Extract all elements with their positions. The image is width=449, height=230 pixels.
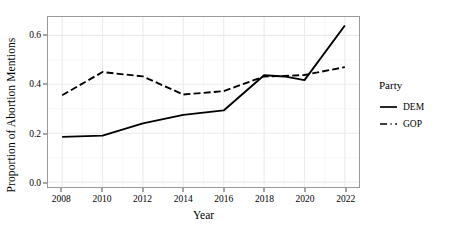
x-axis-tick-mark	[305, 188, 306, 192]
x-axis-tick-mark	[223, 188, 224, 192]
x-axis-tick-mark	[101, 188, 102, 192]
legend-key-dashed-line	[379, 117, 398, 131]
legend-item-gop: GOP	[379, 115, 449, 132]
y-axis-tick-label: 0.2	[22, 129, 41, 139]
y-axis-title: Proportion of Abortion Mentions	[0, 0, 22, 230]
x-axis-tick-mark	[183, 188, 184, 192]
x-axis-tick-label: 2014	[174, 194, 193, 204]
plot-area	[48, 17, 359, 187]
x-axis-tick-label: 2016	[214, 194, 233, 204]
y-axis-tick-label: 0.6	[22, 30, 41, 40]
x-axis-tick-marks	[47, 188, 360, 192]
y-axis-tick-labels: 0.00.20.40.6	[22, 16, 41, 188]
x-axis-tick-labels: 20082010201220142016201820202022	[47, 194, 360, 208]
x-axis-tick-mark	[345, 188, 346, 192]
x-axis-tick-label: 2022	[336, 194, 355, 204]
y-axis-tick-label: 0.4	[22, 79, 41, 89]
y-axis-tick-label: 0.0	[22, 178, 41, 188]
x-axis-tick-label: 2018	[255, 194, 274, 204]
x-axis-tick-mark	[264, 188, 265, 192]
x-axis-tick-label: 2012	[133, 194, 152, 204]
x-axis-tick-label: 2008	[52, 194, 71, 204]
x-axis-tick-label: 2020	[296, 194, 315, 204]
legend: Party DEM GOP	[379, 79, 449, 132]
x-axis-title: Year	[47, 209, 360, 221]
x-axis-tick-mark	[142, 188, 143, 192]
x-axis-tick-mark	[61, 188, 62, 192]
legend-key-solid-line	[379, 100, 398, 114]
legend-label-gop: GOP	[403, 119, 422, 129]
legend-item-dem: DEM	[379, 98, 449, 115]
chart-figure: Proportion of Abortion Mentions 0.00.20.…	[0, 0, 449, 230]
plot-panel	[47, 16, 360, 188]
legend-label-dem: DEM	[403, 102, 424, 112]
legend-title: Party	[379, 79, 449, 91]
x-axis-tick-label: 2010	[92, 194, 111, 204]
